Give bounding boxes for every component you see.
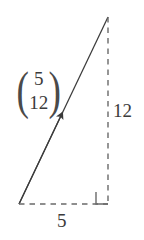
vector-components: 5 12 — [29, 67, 48, 115]
bracket-close: ) — [49, 65, 61, 117]
right-angle-marker — [96, 192, 108, 204]
bracket-open: ( — [16, 65, 28, 117]
vector-component-x: 5 — [34, 67, 44, 91]
vector-component-y: 12 — [29, 91, 48, 115]
horizontal-leg-label: 5 — [57, 211, 67, 230]
vector-column-label: ( 5 12 ) — [14, 64, 64, 118]
vertical-leg-label: 12 — [113, 101, 132, 120]
geometry-figure: ( 5 12 ) 12 5 — [0, 0, 144, 240]
